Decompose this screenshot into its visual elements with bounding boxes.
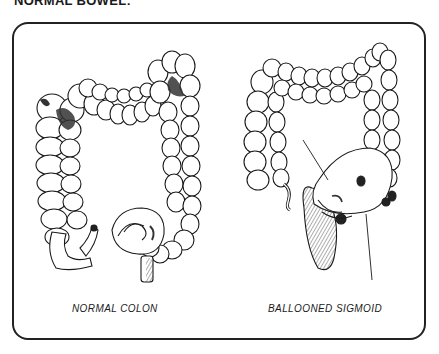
right-transverse-colon: [263, 49, 381, 104]
pointer-line-lower: [366, 214, 372, 280]
pointer-line-upper: [303, 140, 328, 180]
normal-colon-drawing: [36, 51, 201, 282]
sigmoid-colon: [112, 208, 164, 282]
colon-illustrations: [0, 0, 439, 354]
ballooned-sigmoid-drawing: [244, 43, 400, 280]
ballooned-sigmoid-label: BALLOONED SIGMOID: [268, 303, 382, 314]
ballooned-sigmoid: [303, 148, 392, 270]
transverse-colon: [68, 79, 161, 125]
normal-colon-label: NORMAL COLON: [72, 303, 158, 314]
